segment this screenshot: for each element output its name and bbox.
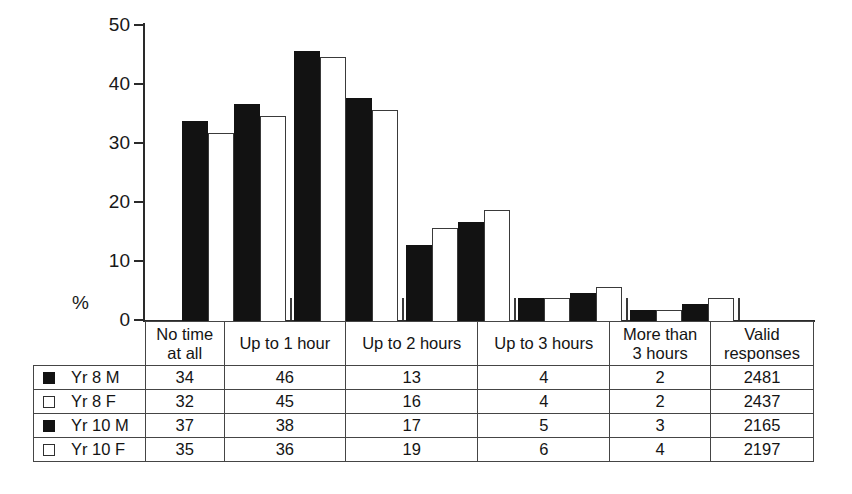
table-cell: 4 — [478, 390, 610, 414]
column-header-line: No time — [148, 325, 222, 344]
table-cell: 17 — [346, 414, 478, 438]
column-header-line: at all — [148, 344, 222, 363]
table-column-header: Validresponses — [710, 322, 813, 366]
legend-cell: Yr 10 F — [34, 438, 146, 462]
table-cell: 3 — [610, 414, 711, 438]
table-cell: 2 — [610, 366, 711, 390]
legend-cell: Yr 10 M — [34, 414, 146, 438]
chart-figure: 50403020100 % No timeat allUp to 1 hourU… — [0, 0, 852, 494]
table-cell: 5 — [478, 414, 610, 438]
table-header-row: No timeat allUp to 1 hourUp to 2 hoursUp… — [34, 322, 814, 366]
table-column-header: Up to 2 hours — [346, 322, 478, 366]
table-cell: 32 — [146, 390, 225, 414]
legend-column-header — [34, 322, 146, 366]
legend-label: Yr 10 F — [71, 440, 125, 459]
table-body: Yr 8 M344613422481Yr 8 F324516422437Yr 1… — [34, 366, 814, 462]
table-row: Yr 10 M373817532165 — [34, 414, 814, 438]
column-header-line: Up to 2 hours — [348, 334, 475, 353]
legend-cell: Yr 8 F — [34, 390, 146, 414]
data-table-wrapper: No timeat allUp to 1 hourUp to 2 hoursUp… — [0, 0, 852, 494]
column-header-line: More than — [612, 325, 708, 344]
table-cell: 34 — [146, 366, 225, 390]
table-cell: 4 — [610, 438, 711, 462]
table-cell: 38 — [224, 414, 346, 438]
table-column-header: No timeat all — [146, 322, 225, 366]
legend-label: Yr 8 M — [71, 368, 120, 387]
table-cell: 2 — [610, 390, 711, 414]
table-cell: 16 — [346, 390, 478, 414]
table-cell: 37 — [146, 414, 225, 438]
table-cell: 45 — [224, 390, 346, 414]
table-cell: 2437 — [710, 390, 813, 414]
open-square-icon — [43, 396, 55, 408]
filled-square-icon — [43, 372, 55, 384]
table-cell: 46 — [224, 366, 346, 390]
column-header-line: Up to 1 hour — [227, 334, 344, 353]
table-cell: 2197 — [710, 438, 813, 462]
table-row: Yr 8 F324516422437 — [34, 390, 814, 414]
table-column-header: Up to 3 hours — [478, 322, 610, 366]
table-cell: 6 — [478, 438, 610, 462]
legend-cell: Yr 8 M — [34, 366, 146, 390]
table-column-header: Up to 1 hour — [224, 322, 346, 366]
table-row: Yr 8 M344613422481 — [34, 366, 814, 390]
table-cell: 2481 — [710, 366, 813, 390]
open-square-icon — [43, 444, 55, 456]
table-cell: 13 — [346, 366, 478, 390]
table-cell: 36 — [224, 438, 346, 462]
column-header-line: 3 hours — [612, 344, 708, 363]
table-row: Yr 10 F353619642197 — [34, 438, 814, 462]
legend-label: Yr 8 F — [71, 392, 116, 411]
filled-square-icon — [43, 420, 55, 432]
table-cell: 4 — [478, 366, 610, 390]
table-cell: 19 — [346, 438, 478, 462]
legend-label: Yr 10 M — [71, 416, 129, 435]
column-header-line: Valid — [713, 325, 811, 344]
data-table: No timeat allUp to 1 hourUp to 2 hoursUp… — [33, 321, 814, 462]
column-header-line: responses — [713, 344, 811, 363]
table-header: No timeat allUp to 1 hourUp to 2 hoursUp… — [34, 322, 814, 366]
table-cell: 2165 — [710, 414, 813, 438]
table-cell: 35 — [146, 438, 225, 462]
table-column-header: More than3 hours — [610, 322, 711, 366]
column-header-line: Up to 3 hours — [480, 334, 607, 353]
